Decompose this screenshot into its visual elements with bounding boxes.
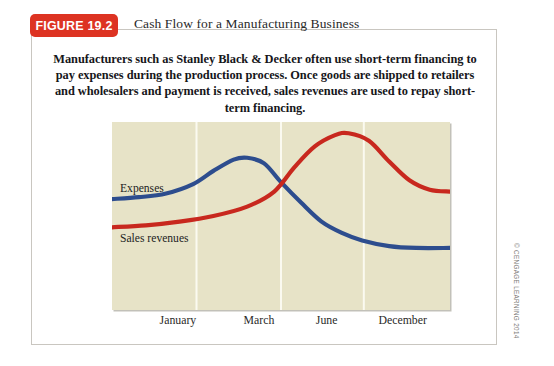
- chart-svg: [112, 122, 450, 310]
- figure-title: Cash Flow for a Manufacturing Business: [134, 16, 359, 32]
- chart: Expenses Sales revenues: [112, 122, 450, 310]
- figure-caption: Manufacturers such as Stanley Black & De…: [46, 51, 484, 116]
- figure-number-badge: FIGURE 19.2: [30, 14, 118, 37]
- chart-plot-area: Expenses Sales revenues: [112, 122, 450, 310]
- x-axis-tick-label: March: [244, 313, 275, 328]
- chart-x-axis: JanuaryMarchJuneDecember: [112, 313, 450, 333]
- x-axis-tick-label: December: [378, 313, 426, 328]
- series-label-sales-revenues: Sales revenues: [120, 232, 189, 245]
- x-axis-tick-label: June: [316, 313, 338, 328]
- copyright-notice: © CENGAGE LEARNING 2014: [513, 243, 520, 353]
- x-axis-tick-label: January: [160, 313, 197, 328]
- series-label-expenses: Expenses: [120, 182, 164, 195]
